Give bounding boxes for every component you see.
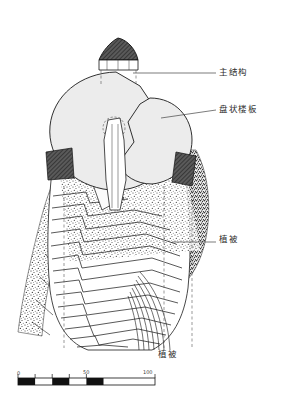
scale-tick-100: 100 — [143, 369, 153, 375]
scale-tick-50: 50 — [83, 369, 89, 375]
annotation-label-disc-slab: 盘状楼板 — [219, 105, 257, 114]
annotation-label-vegetation-right: 植被 — [219, 235, 238, 244]
drawing-canvas: 主结构 盘状楼板 植被 植被 0 50 100 — [0, 0, 283, 415]
annotation-label-vegetation-bottom: 植被 — [158, 350, 177, 359]
scale-tick-0: 0 — [17, 370, 20, 376]
architectural-drawing — [0, 0, 283, 415]
annotation-label-main-structure: 主结构 — [219, 68, 248, 77]
